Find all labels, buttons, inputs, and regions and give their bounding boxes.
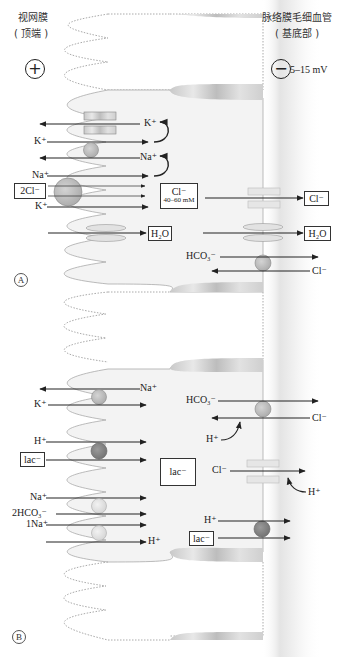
- label-h-plus2-b: H⁺: [308, 487, 321, 497]
- neighbor-cell-bottom: [64, 562, 263, 640]
- cl-channel-basal: [248, 188, 280, 195]
- apical-sublabel: ( 顶端 ): [14, 29, 48, 39]
- label-hco3-b: HCO₃⁻: [186, 395, 216, 405]
- label-k-in-b: K⁺: [34, 399, 47, 409]
- nkcc-cotransporter: [54, 178, 82, 206]
- basal-sublabel: ( 基底部 ): [275, 29, 319, 39]
- intracellular-cl-concentration: 40–60 mM: [161, 197, 197, 205]
- nhe-exchanger: [92, 526, 107, 541]
- bruchs-membrane: [262, 0, 322, 657]
- label-1na: 1Na⁺: [26, 519, 48, 529]
- cl-hco3-exchanger-b: [255, 401, 271, 417]
- label-cl-in-a: Cl⁻: [312, 266, 327, 276]
- label-k-out: K⁺: [144, 118, 157, 128]
- label-h-out-basal: H⁺: [204, 515, 217, 525]
- label-lac-basal: lac⁻: [189, 531, 214, 546]
- mct1-transporter: [91, 443, 107, 459]
- potential-label: 5–15 mV: [290, 65, 328, 75]
- basal-label: 脉络膜毛细血管: [262, 13, 332, 23]
- panel-a-label: A: [14, 273, 28, 287]
- label-h2o-apical: H₂O: [148, 226, 172, 241]
- neighbor-cell-top: [65, 14, 264, 90]
- label-cl-chan-b: Cl⁻: [212, 465, 227, 475]
- panel-b-label: B: [12, 630, 26, 644]
- label-na-out-b: Na⁺: [140, 383, 157, 393]
- rpe-transport-diagram: [0, 0, 343, 657]
- mct3-transporter: [254, 521, 270, 537]
- intracellular-cl-box: Cl⁻ 40–60 mM: [160, 183, 198, 209]
- label-2hco3: 2HCO₃⁻: [12, 508, 47, 518]
- na-k-atpase: [84, 143, 99, 158]
- label-na-out: Na⁺: [140, 152, 157, 162]
- intracellular-lac-box: lac⁻: [160, 458, 196, 486]
- label-h2o-basal: H₂O: [304, 226, 331, 241]
- cl-channel-basal-b: [247, 460, 279, 467]
- label-h-in-b: H⁺: [34, 436, 47, 446]
- label-lac-apical: lac⁻: [20, 452, 45, 467]
- negative-charge-icon: −: [271, 59, 291, 79]
- label-cl-basal-out: Cl⁻: [304, 191, 329, 206]
- label-na-in-b: Na⁺: [30, 492, 47, 502]
- label-cl-in-b: Cl⁻: [312, 413, 327, 423]
- apical-label: 视网膜: [18, 13, 48, 23]
- label-h-out-b: H⁺: [148, 536, 161, 546]
- label-k-in2: K⁺: [35, 201, 48, 211]
- positive-charge-icon: +: [25, 59, 45, 79]
- label-hco3-a: HCO₃⁻: [186, 251, 216, 261]
- aquaporin-basal: [243, 224, 283, 231]
- k-channel: [84, 112, 116, 120]
- neighbor-cell-middle: [64, 292, 263, 362]
- label-2cl-box: 2Cl⁻: [14, 183, 46, 199]
- na-k-atpase-b: [92, 390, 107, 405]
- nbc-cotransporter: [92, 499, 107, 514]
- label-k-in: K⁺: [34, 136, 47, 146]
- label-na-in: Na⁺: [32, 170, 49, 180]
- label-h-plus-b: H⁺: [206, 434, 219, 444]
- aquaporin-apical: [86, 225, 126, 232]
